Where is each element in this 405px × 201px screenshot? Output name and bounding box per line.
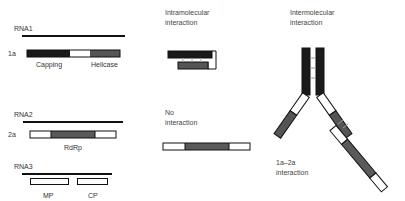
protein-1a-bar: [27, 50, 120, 57]
protein-1a-label: 1a: [8, 50, 16, 58]
intramolecular-fold: [168, 51, 216, 69]
protein-2a-label: 2a: [8, 131, 16, 139]
mp-bar: [31, 179, 69, 185]
rna3-label: RNA3: [14, 163, 33, 171]
rdrp-label: RdRp: [64, 144, 82, 152]
no-interaction-bar: [163, 143, 250, 150]
cp-label: CP: [88, 192, 98, 200]
rna2-label: RNA2: [14, 111, 33, 119]
capping-label: Capping: [36, 61, 62, 69]
diagram-canvas: [0, 0, 405, 201]
cp-bar: [78, 179, 108, 185]
no-interaction-label: No interaction: [165, 108, 197, 128]
protein-2a-bar: [30, 131, 116, 138]
intramolecular-label: Intramolecular interaction: [165, 8, 209, 28]
helicase-label: Helicase: [91, 61, 118, 69]
mp-label: MP: [43, 192, 54, 200]
intermolecular-label: Intermolecular interaction: [290, 8, 334, 28]
rna1-label: RNA1: [14, 25, 33, 33]
pair-interaction-label: 1a–2a interaction: [276, 158, 308, 178]
